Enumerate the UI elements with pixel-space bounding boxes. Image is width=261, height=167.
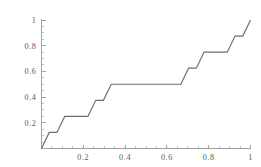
y-axis-major-ticks <box>42 20 46 123</box>
y-axis-label-1: 1 <box>32 16 37 25</box>
x-axis-label-0.8: 0.8 <box>203 153 215 162</box>
cantor-function-curve <box>42 20 251 149</box>
plot-canvas: 0.20.40.60.81 0.20.40.60.81 <box>0 0 261 167</box>
x-axis-label-0.4: 0.4 <box>119 153 131 162</box>
cantor-function-plot: 0.20.40.60.81 0.20.40.60.81 <box>0 0 261 167</box>
y-axis-label-0.2: 0.2 <box>24 119 36 128</box>
x-axis-label-1: 1 <box>248 153 253 162</box>
x-axis-label-0.6: 0.6 <box>161 153 173 162</box>
x-axis-tick-labels: 0.20.40.60.81 <box>77 153 253 162</box>
y-axis-label-0.4: 0.4 <box>24 93 36 102</box>
y-axis-label-0.6: 0.6 <box>24 67 36 76</box>
x-axis-major-ticks <box>83 145 250 149</box>
x-axis-label-0.2: 0.2 <box>77 153 89 162</box>
y-axis-tick-labels: 0.20.40.60.81 <box>24 16 36 128</box>
y-axis-label-0.8: 0.8 <box>24 42 36 51</box>
